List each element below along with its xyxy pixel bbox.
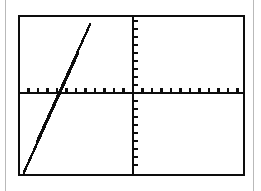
screenshot-canvas: [0, 0, 261, 191]
calculator-screen: [18, 15, 245, 176]
page-guide-rule-right: [253, 0, 254, 191]
function-curve: [24, 24, 91, 174]
linear-function-line: [24, 24, 91, 174]
graph-plot: [20, 17, 243, 174]
page-guide-rule-left: [5, 0, 6, 191]
plot-area: [20, 17, 243, 174]
